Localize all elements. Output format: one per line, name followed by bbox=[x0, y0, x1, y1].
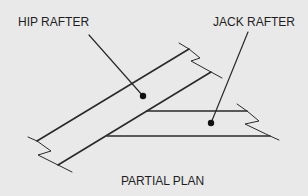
rafter-plan-drawing bbox=[0, 0, 308, 196]
hip-rafter-leader-line bbox=[89, 35, 143, 96]
jack-rafter-leader-dot bbox=[208, 120, 214, 126]
jack-rafter-break-line bbox=[237, 104, 279, 140]
hip-rafter-leader-dot bbox=[140, 93, 146, 99]
hip-rafter-break-line-top bbox=[179, 43, 222, 78]
jack-rafter-label: JACK RAFTER bbox=[213, 15, 295, 29]
diagram-caption: PARTIAL PLAN bbox=[121, 174, 204, 188]
leaders bbox=[89, 32, 248, 126]
hip-rafter-label: HIP RAFTER bbox=[18, 15, 89, 29]
diagram-canvas: HIP RAFTER JACK RAFTER PARTIAL PLAN bbox=[0, 0, 308, 196]
jack-rafter-leader-line bbox=[211, 32, 248, 123]
hip-rafter-break-line-bottom bbox=[28, 137, 72, 172]
hip-rafter bbox=[28, 43, 222, 172]
jack-rafter bbox=[107, 104, 279, 140]
